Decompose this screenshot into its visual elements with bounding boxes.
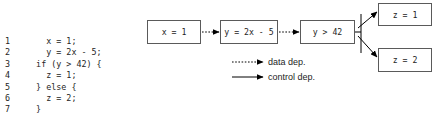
node-z-then[interactable]: z = 1: [378, 3, 432, 26]
legend-control-dep-label: control dep.: [268, 72, 315, 82]
edge-control-fork-stem: [355, 14, 361, 53]
node-y-assign[interactable]: y = 2x - 5: [220, 20, 278, 44]
dependence-graph: x = 1 y = 2x - 5 y > 42 z = 1 z = 2 data…: [0, 0, 435, 119]
node-x-assign[interactable]: x = 1: [147, 20, 201, 44]
node-condition[interactable]: y > 42: [300, 20, 355, 44]
graph-edges: [0, 0, 435, 119]
legend-data-dep-label: data dep.: [268, 57, 306, 67]
node-z-else[interactable]: z = 2: [378, 48, 432, 72]
